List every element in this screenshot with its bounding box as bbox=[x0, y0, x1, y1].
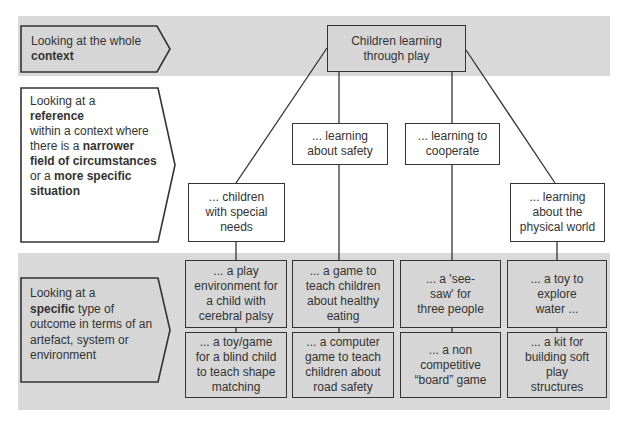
level-reference-text-5: or a bbox=[30, 169, 54, 183]
level-specific-text-2: specific bbox=[30, 302, 75, 316]
outcome-label: ... a 'see-saw' for three people bbox=[415, 272, 486, 317]
level-reference-text-1: Looking at a bbox=[30, 94, 95, 108]
outcome-label: ... a toy/game for a blind child to teac… bbox=[192, 335, 280, 395]
root-node: Children learning through play bbox=[327, 25, 466, 72]
outcome-node: ... a toy to explore water ... bbox=[507, 260, 607, 328]
branch-node-physical-world: ... learning about the physical world bbox=[510, 183, 605, 242]
outcome-label: ... a non competitive “board” game bbox=[413, 343, 488, 388]
outcome-label: ... a toy to explore water ... bbox=[530, 272, 584, 317]
level-reference-label: Looking at a reference within a context … bbox=[20, 87, 180, 244]
level-reference-text-2: reference bbox=[30, 109, 84, 123]
branch-node-special-needs: ... children with special needs bbox=[188, 183, 285, 242]
outcome-label: ... a game to teach children about healt… bbox=[301, 264, 385, 324]
branch-node-safety: ... learning about safety bbox=[292, 123, 388, 165]
level-context-label: Looking at the whole context bbox=[20, 25, 175, 73]
root-node-label: Children learning through play bbox=[350, 34, 443, 64]
branch-label: ... learning to cooperate bbox=[416, 129, 489, 159]
outcome-label: ... a kit for building soft play structu… bbox=[518, 335, 596, 395]
outcome-node: ... a computer game to teach children ab… bbox=[292, 332, 394, 398]
outcome-label: ... a play environment for a child with … bbox=[192, 264, 280, 324]
outcome-label: ... a computer game to teach children ab… bbox=[303, 335, 383, 395]
outcome-node: ... a play environment for a child with … bbox=[185, 260, 287, 328]
branch-label: ... learning about the physical world bbox=[517, 190, 598, 235]
outcome-node: ... a 'see-saw' for three people bbox=[400, 260, 501, 328]
branch-label: ... learning about safety bbox=[303, 129, 377, 159]
level-context-text-bold: context bbox=[31, 49, 74, 63]
branch-label: ... children with special needs bbox=[199, 190, 274, 235]
outcome-node: ... a toy/game for a blind child to teac… bbox=[185, 332, 287, 398]
branch-node-cooperate: ... learning to cooperate bbox=[405, 123, 500, 165]
outcome-node: ... a non competitive “board” game bbox=[400, 332, 501, 398]
outcome-node: ... a kit for building soft play structu… bbox=[507, 332, 607, 398]
level-context-text-1: Looking at the whole bbox=[31, 34, 141, 48]
level-specific-text-1: Looking at a bbox=[30, 286, 95, 300]
outcome-node: ... a game to teach children about healt… bbox=[292, 260, 394, 328]
level-specific-label: Looking at a specific type of outcome in… bbox=[20, 277, 175, 384]
